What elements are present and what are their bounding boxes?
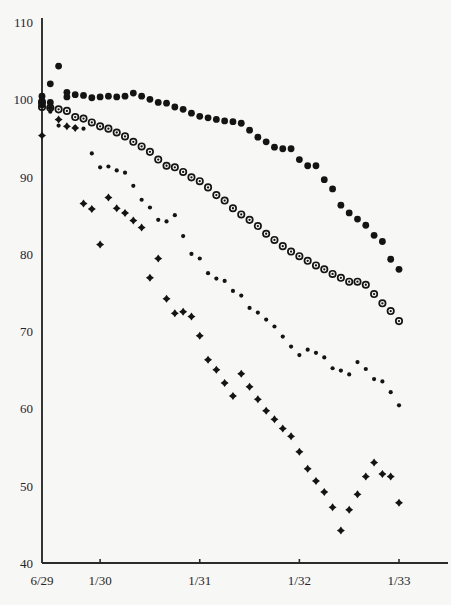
data-point — [64, 94, 71, 101]
data-point — [212, 366, 220, 374]
data-point — [104, 193, 112, 201]
data-point — [154, 254, 162, 262]
data-point — [163, 100, 170, 107]
data-point — [254, 395, 262, 403]
data-point — [81, 127, 85, 131]
data-point — [395, 499, 403, 507]
data-point — [330, 366, 334, 370]
data-point — [38, 132, 46, 140]
data-point — [238, 120, 245, 127]
data-point-center — [165, 165, 167, 167]
data-point — [353, 490, 361, 498]
data-point-center — [116, 131, 118, 133]
chart-canvas: 4050607080901001106/291/301/311/321/33 — [0, 0, 451, 605]
data-point-center — [356, 281, 358, 283]
data-point — [187, 312, 195, 320]
data-point-center — [224, 199, 226, 201]
data-point — [347, 372, 351, 376]
data-point — [55, 115, 63, 123]
data-point — [138, 93, 145, 100]
data-point — [339, 368, 343, 372]
data-point — [113, 204, 121, 212]
data-point — [213, 116, 220, 123]
data-point — [364, 367, 368, 371]
data-point — [205, 114, 212, 121]
data-point-center — [174, 166, 176, 168]
data-point-center — [373, 293, 375, 295]
y-axis-ticks: 405060708090100110 — [14, 15, 34, 571]
data-point-center — [290, 250, 292, 252]
data-point — [189, 252, 193, 256]
data-point — [88, 94, 95, 101]
data-point — [146, 274, 154, 282]
data-point — [378, 470, 386, 478]
data-point — [247, 306, 251, 310]
data-point — [204, 356, 212, 364]
data-point — [98, 165, 102, 169]
data-point-center — [149, 151, 151, 153]
data-point — [295, 448, 303, 456]
data-point — [271, 144, 278, 151]
data-point — [281, 334, 285, 338]
series-filled-circle — [39, 63, 403, 273]
data-point — [320, 488, 328, 496]
data-point — [254, 134, 261, 141]
data-point — [140, 198, 144, 202]
data-point-center — [66, 110, 68, 112]
data-point — [57, 123, 61, 127]
data-point — [389, 390, 393, 394]
data-point — [55, 63, 62, 70]
data-point — [288, 145, 295, 152]
data-point — [246, 383, 254, 391]
data-point — [239, 293, 243, 297]
data-point — [129, 217, 137, 225]
data-point — [397, 403, 401, 407]
data-point — [297, 353, 301, 357]
data-point-center — [381, 302, 383, 304]
data-point — [171, 309, 179, 317]
data-point — [272, 324, 276, 328]
data-point-center — [99, 125, 101, 127]
series-small-dot — [40, 100, 401, 408]
data-point — [88, 205, 96, 213]
x-tick-label: 6/29 — [30, 573, 53, 588]
data-point-center — [132, 141, 134, 143]
data-point-center — [41, 106, 43, 108]
scatter-chart: 4050607080901001106/291/301/311/321/33 — [0, 0, 451, 605]
y-tick-label: 110 — [14, 15, 33, 30]
data-point — [90, 151, 94, 155]
series-four-point-star — [38, 104, 403, 535]
x-tick-label: 1/32 — [288, 573, 311, 588]
data-point-center — [199, 180, 201, 182]
data-point-center — [57, 108, 59, 110]
data-point — [229, 392, 237, 400]
data-point — [223, 279, 227, 283]
data-point-center — [74, 116, 76, 118]
data-point — [337, 527, 345, 535]
data-point — [96, 241, 104, 249]
data-point — [164, 219, 168, 223]
data-point — [379, 238, 386, 245]
data-point — [196, 113, 203, 120]
data-point — [329, 503, 337, 511]
data-point — [246, 127, 253, 134]
y-tick-label: 80 — [20, 247, 33, 262]
data-point-center — [390, 310, 392, 312]
data-point-center — [398, 320, 400, 322]
data-point — [380, 379, 384, 383]
data-point — [188, 110, 195, 117]
data-point — [131, 184, 135, 188]
data-point-center — [315, 264, 317, 266]
data-point — [163, 295, 171, 303]
data-point-center — [365, 284, 367, 286]
data-point — [115, 168, 119, 172]
data-point — [263, 138, 270, 145]
data-point-center — [140, 145, 142, 147]
data-point — [304, 162, 311, 169]
data-point — [279, 145, 286, 152]
data-point — [355, 360, 359, 364]
data-point-center — [307, 260, 309, 262]
data-point — [370, 459, 378, 467]
data-point — [113, 94, 120, 101]
x-tick-label: 1/30 — [89, 573, 112, 588]
